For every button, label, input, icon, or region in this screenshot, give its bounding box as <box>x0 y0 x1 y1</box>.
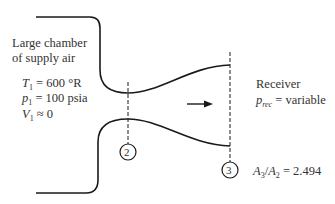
flow-arrow-icon <box>187 101 213 108</box>
v1-symbol: V <box>22 107 30 121</box>
t1-value: = 600 °R <box>33 76 82 90</box>
v1-value: ≈ 0 <box>34 107 53 121</box>
receiver-pressure: prec = variable <box>256 93 326 112</box>
chamber-velocity: V1 ≈ 0 <box>22 107 53 126</box>
chamber-title-line1: Large chamber <box>12 36 87 50</box>
area-ratio-value: = 2.494 <box>280 164 321 178</box>
area-ratio: A3/A2 = 2.494 <box>253 164 321 183</box>
prec-value: = variable <box>272 93 326 107</box>
prec-subscript: rec <box>262 100 272 109</box>
a2-symbol: A <box>268 164 276 178</box>
station-2-label: 2 <box>124 145 130 159</box>
a3-symbol: A <box>253 164 261 178</box>
p1-value: = 100 psia <box>32 91 87 105</box>
chamber-title-line2: of supply air <box>12 51 75 65</box>
station-3-label: 3 <box>226 163 232 177</box>
receiver-title: Receiver <box>256 77 300 91</box>
t1-symbol: T <box>22 76 29 90</box>
